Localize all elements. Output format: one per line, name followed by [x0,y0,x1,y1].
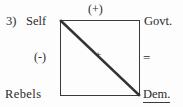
edge-sign-left: (-) [34,51,46,63]
node-label-dem: Dem. [143,88,170,103]
node-label-self: Self [26,15,46,28]
item-number: 3) [6,15,16,28]
node-label-rebels: Rebels [5,88,41,101]
edge-sign-top: (+) [88,3,103,15]
balance-diagram: 3) Self Govt. Rebels Dem. (+) (-) = + [0,0,183,107]
edge-sign-diagonal: + [95,49,101,60]
edge-sign-right: = [143,51,150,64]
node-label-govt: Govt. [144,15,172,28]
